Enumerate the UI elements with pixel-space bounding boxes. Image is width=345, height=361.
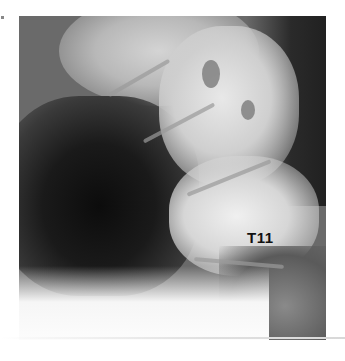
corner-mark: [1, 16, 4, 19]
lower-soft-tissue: [19, 266, 269, 340]
pedicle-shadow: [202, 60, 220, 88]
vertebra-label: T11: [247, 229, 274, 246]
scan-line: [0, 337, 345, 339]
pedicle-shadow: [241, 100, 255, 120]
xray-image: [19, 16, 326, 340]
